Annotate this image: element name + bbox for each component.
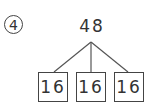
part-value: 16	[78, 77, 104, 97]
part-box-3: 16	[114, 72, 144, 102]
part-box-2: 16	[76, 72, 106, 102]
part-box-1: 16	[38, 72, 68, 102]
part-value: 16	[116, 77, 142, 97]
part-value: 16	[40, 77, 66, 97]
